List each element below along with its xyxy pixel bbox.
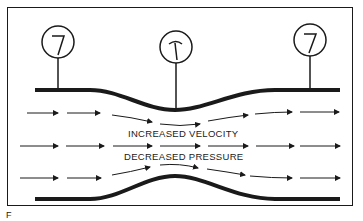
top-pipe-wall: [35, 90, 340, 110]
bottom-pipe-wall: [35, 176, 340, 199]
inlet-pressure-gauge: [42, 26, 74, 88]
velocity-label: INCREASED VELOCITY: [128, 128, 238, 139]
throat-pressure-gauge: [160, 31, 192, 108]
flow-arrows-top: [27, 112, 339, 126]
figure-caption: F: [6, 210, 12, 220]
outlet-pressure-gauge: [294, 24, 326, 88]
venturi-diagram: [0, 0, 363, 221]
pressure-label: DECREASED PRESSURE: [124, 151, 243, 162]
